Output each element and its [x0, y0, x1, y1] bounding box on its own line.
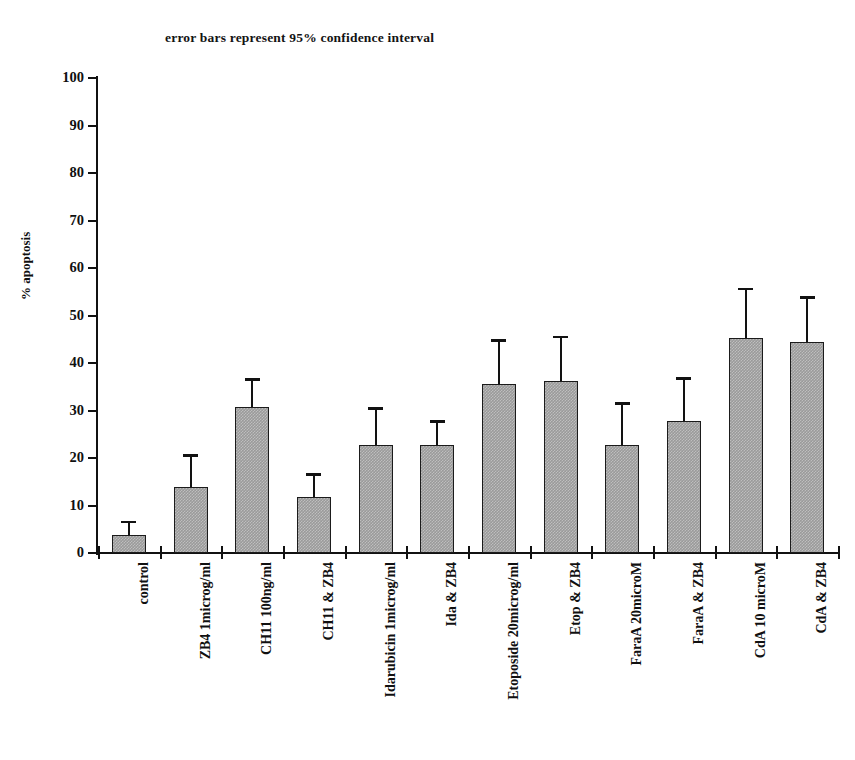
x-axis-tick	[345, 546, 347, 559]
x-axis-category-label: CdA 10 microM	[753, 562, 769, 658]
x-axis-category-label: Etoposide 20microg/ml	[506, 562, 522, 700]
error-bar-cap	[491, 339, 506, 341]
error-bar	[436, 423, 438, 445]
x-axis-tick	[838, 546, 840, 559]
bar-group	[729, 78, 763, 553]
bar-group	[790, 78, 824, 553]
y-axis-tick-value: 30	[50, 402, 84, 419]
error-bar	[683, 380, 685, 422]
bar-group	[544, 78, 578, 553]
chart-note: error bars represent 95% confidence inte…	[165, 30, 434, 46]
error-bar	[560, 338, 562, 381]
error-bar-cap	[121, 521, 136, 523]
bar-group	[420, 78, 454, 553]
bar	[729, 338, 763, 553]
bar	[359, 445, 393, 553]
x-axis-category-label: ZB4 1microg/ml	[198, 562, 214, 659]
y-axis-tick	[88, 172, 97, 174]
bar	[112, 535, 146, 553]
x-axis-tick	[468, 546, 470, 559]
error-bar-cap	[368, 407, 383, 409]
bar	[605, 445, 639, 553]
x-axis-tick	[283, 546, 285, 559]
y-axis-tick-value: 100	[50, 69, 84, 86]
error-bar-cap	[306, 473, 321, 475]
bar-group	[174, 78, 208, 553]
bar	[297, 497, 331, 553]
error-bar-cap	[800, 296, 815, 298]
bar	[544, 381, 578, 553]
y-axis-tick-value: 50	[50, 307, 84, 324]
error-bar-cap	[183, 454, 198, 456]
error-bar-cap	[738, 288, 753, 290]
y-axis-tick-value: 40	[50, 354, 84, 371]
x-axis-category-label: FaraA 20microM	[629, 562, 645, 666]
y-axis-tick	[88, 457, 97, 459]
bar-group	[605, 78, 639, 553]
error-bar-cap	[615, 402, 630, 404]
y-axis-tick	[88, 315, 97, 317]
bar-group	[482, 78, 516, 553]
y-axis-tick	[88, 410, 97, 412]
error-bar	[251, 381, 253, 408]
error-bar	[128, 523, 130, 535]
x-axis-tick	[406, 546, 408, 559]
bar-chart-figure: error bars represent 95% confidence inte…	[0, 0, 855, 760]
error-bar	[498, 342, 500, 385]
bar	[667, 421, 701, 553]
error-bar	[806, 299, 808, 342]
y-axis-tick-value: 80	[50, 164, 84, 181]
y-axis-tick-value: 10	[50, 497, 84, 514]
bar	[482, 384, 516, 553]
bar	[235, 407, 269, 553]
bar	[174, 487, 208, 554]
bar-group	[359, 78, 393, 553]
x-axis-tick	[591, 546, 593, 559]
error-bar	[375, 410, 377, 446]
error-bar	[313, 476, 315, 497]
x-axis-tick	[715, 546, 717, 559]
x-axis-category-label: FaraA & ZB4	[691, 562, 707, 644]
y-axis-tick	[88, 267, 97, 269]
bar	[790, 342, 824, 553]
x-axis-category-label: CdA & ZB4	[814, 562, 830, 634]
error-bar	[745, 290, 747, 338]
y-axis-tick	[88, 220, 97, 222]
bar-group	[235, 78, 269, 553]
error-bar	[190, 457, 192, 487]
y-axis-tick	[88, 125, 97, 127]
x-axis-tick	[530, 546, 532, 559]
x-axis-tick	[160, 546, 162, 559]
x-axis-category-label: control	[136, 562, 152, 605]
x-axis-tick	[653, 546, 655, 559]
error-bar-cap	[553, 336, 568, 338]
error-bar	[621, 405, 623, 445]
y-axis-title: % apoptosis	[18, 232, 34, 300]
error-bar-cap	[245, 378, 260, 380]
bar-group	[112, 78, 146, 553]
x-axis-category-label: Etop & ZB4	[568, 562, 584, 635]
error-bar-cap	[430, 420, 445, 422]
x-axis-tick	[776, 546, 778, 559]
y-axis-tick-value: 0	[50, 544, 84, 561]
y-axis-tick	[88, 362, 97, 364]
x-axis-category-label: Ida & ZB4	[444, 562, 460, 627]
y-axis-tick	[88, 505, 97, 507]
x-axis-category-label: Idarubicin 1microg/ml	[383, 562, 399, 697]
y-axis-tick	[88, 552, 97, 554]
x-axis-category-label: CH11 100ng/ml	[259, 562, 275, 655]
y-axis-tick-value: 90	[50, 117, 84, 134]
bar-group	[297, 78, 331, 553]
y-axis-tick	[88, 77, 97, 79]
bar	[420, 445, 454, 553]
error-bar-cap	[676, 377, 691, 379]
y-axis-tick-value: 60	[50, 259, 84, 276]
x-axis-tick	[221, 546, 223, 559]
x-axis-category-label: CH11 & ZB4	[321, 562, 337, 641]
y-axis-tick-value: 70	[50, 212, 84, 229]
y-axis-tick-value: 20	[50, 449, 84, 466]
bar-group	[667, 78, 701, 553]
x-axis-tick	[98, 546, 100, 559]
